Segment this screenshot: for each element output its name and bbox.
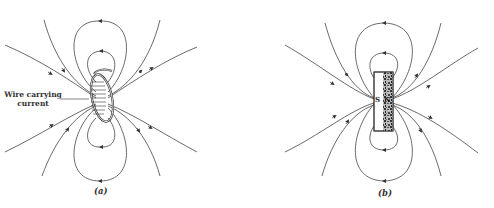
wire-coil (87, 70, 117, 124)
panel-a-caption: (a) (94, 186, 108, 196)
wire-carrying-current-label: Wire carrying current (2, 90, 64, 108)
north-pole-label: N (384, 95, 390, 104)
panel-b-caption: (b) (378, 188, 392, 198)
magnetic-field-diagram (0, 0, 494, 208)
south-pole-label: S (375, 95, 380, 104)
